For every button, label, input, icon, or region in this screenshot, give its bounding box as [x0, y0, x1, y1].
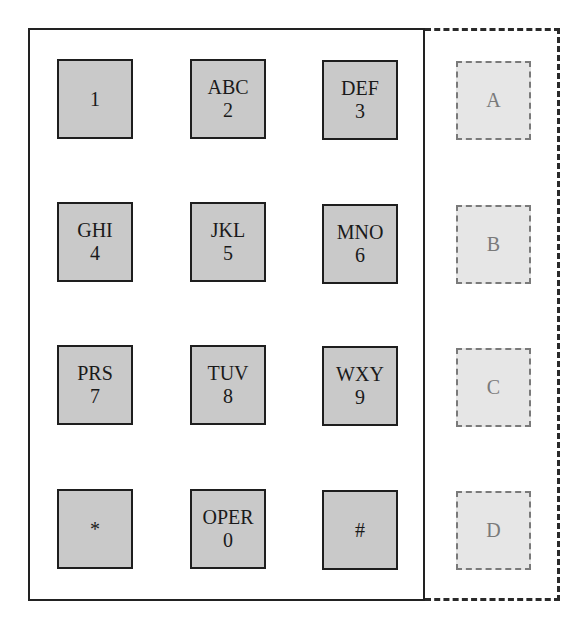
aux-key-a[interactable]: A — [456, 61, 531, 140]
key-letters: MNO — [337, 221, 384, 244]
key-digit: 6 — [355, 244, 365, 267]
key-letters: JKL — [211, 219, 245, 242]
aux-key-label: B — [487, 233, 500, 256]
key-3[interactable]: DEF 3 — [322, 60, 398, 140]
key-digit: 9 — [355, 386, 365, 409]
aux-key-d[interactable]: D — [456, 491, 531, 570]
key-digit: 3 — [355, 100, 365, 123]
key-6[interactable]: MNO 6 — [322, 204, 398, 284]
key-2[interactable]: ABC 2 — [190, 59, 266, 139]
aux-key-b[interactable]: B — [456, 205, 531, 284]
key-0-oper[interactable]: OPER 0 — [190, 489, 266, 569]
key-letters: OPER — [202, 506, 253, 529]
key-1[interactable]: 1 — [57, 59, 133, 139]
key-letters: WXY — [336, 363, 384, 386]
key-digit: 4 — [90, 242, 100, 265]
aux-key-label: C — [487, 376, 500, 399]
key-hash[interactable]: # — [322, 490, 398, 570]
aux-key-c[interactable]: C — [456, 348, 531, 427]
key-8[interactable]: TUV 8 — [190, 345, 266, 425]
key-letters: DEF — [341, 77, 379, 100]
key-7[interactable]: PRS 7 — [57, 345, 133, 425]
key-letters: PRS — [77, 362, 113, 385]
key-digit: 1 — [90, 88, 100, 111]
key-digit: 8 — [223, 385, 233, 408]
aux-key-label: A — [486, 89, 500, 112]
key-digit: 2 — [223, 99, 233, 122]
key-digit: 0 — [223, 529, 233, 552]
key-9[interactable]: WXY 9 — [322, 346, 398, 426]
key-letters: ABC — [207, 76, 248, 99]
key-4[interactable]: GHI 4 — [57, 202, 133, 282]
key-digit: 7 — [90, 385, 100, 408]
aux-key-label: D — [486, 519, 500, 542]
key-digit: 5 — [223, 242, 233, 265]
key-letters: GHI — [77, 219, 113, 242]
key-digit: * — [90, 518, 100, 541]
key-star[interactable]: * — [57, 489, 133, 569]
key-digit: # — [355, 519, 365, 542]
key-5[interactable]: JKL 5 — [190, 202, 266, 282]
key-letters: TUV — [207, 362, 248, 385]
